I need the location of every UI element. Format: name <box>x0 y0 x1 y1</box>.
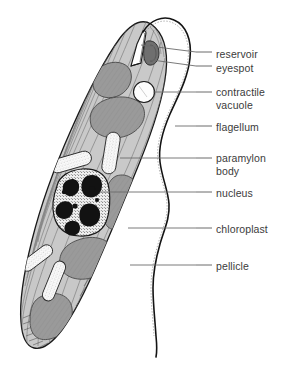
label-nucleus: nucleus <box>216 187 253 200</box>
label-paramylon-body: paramylonbody <box>216 152 266 177</box>
label-flagellum: flagellum <box>216 121 259 134</box>
label-reservoir-line1: reservoir <box>216 48 258 61</box>
label-chloroplast-line1: chloroplast <box>216 223 268 236</box>
label-reservoir: reservoir <box>216 48 258 61</box>
contractile-vacuole <box>134 82 155 103</box>
label-paramylon-body-line1: paramylon <box>216 152 266 165</box>
label-pellicle: pellicle <box>216 260 249 273</box>
label-flagellum-line1: flagellum <box>216 121 259 134</box>
label-contractile-vacuole-line2: vacuole <box>216 99 265 112</box>
euglena-diagram: reservoireyespotcontractilevacuoleflagel… <box>0 0 281 371</box>
label-contractile-vacuole-line1: contractile <box>216 86 265 99</box>
eyespot <box>144 41 159 65</box>
label-eyespot-line1: eyespot <box>216 62 253 75</box>
label-pellicle-line1: pellicle <box>216 260 249 273</box>
label-chloroplast: chloroplast <box>216 223 268 236</box>
label-paramylon-body-line2: body <box>216 165 266 178</box>
label-nucleus-line1: nucleus <box>216 187 253 200</box>
label-contractile-vacuole: contractilevacuole <box>216 86 265 111</box>
label-eyespot: eyespot <box>216 62 253 75</box>
nucleus <box>53 169 110 236</box>
